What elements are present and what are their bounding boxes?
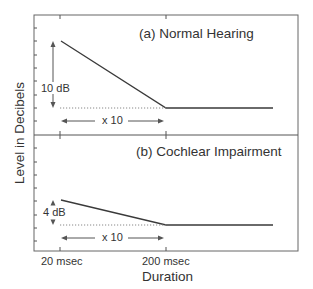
panel-a-db-arrow — [51, 41, 56, 108]
panel-a-threshold-line — [61, 41, 273, 108]
panel-a-db-label: 10 dB — [40, 83, 71, 94]
panel-a-ratio-label: x 10 — [101, 115, 124, 126]
y-axis-title: Level in Decibels — [13, 78, 27, 188]
x-axis-title: Duration — [142, 270, 193, 284]
panel-b-threshold-line — [61, 200, 273, 225]
panel-b-title: (b) Cochlear Impairment — [136, 145, 282, 159]
x-tick-label-20ms: 20 msec — [41, 256, 83, 267]
x-tick-label-200ms: 200 msec — [142, 256, 190, 267]
panel-a-title: (a) Normal Hearing — [139, 27, 254, 41]
panel-b-db-label: 4 dB — [42, 207, 67, 218]
panel-b-ratio-label: x 10 — [101, 232, 124, 243]
